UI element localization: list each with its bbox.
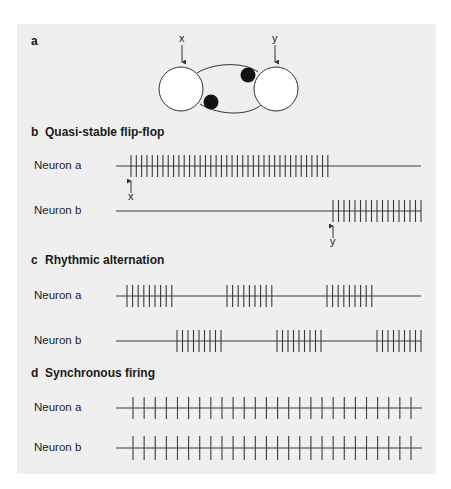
synapse-a-to-b-icon: [241, 68, 256, 83]
circuit-diagram: [159, 45, 298, 113]
synapse-b-to-a-icon: [204, 95, 219, 110]
spike-traces: [116, 155, 422, 460]
neuron-b-cell: [254, 67, 298, 111]
figure-canvas: [0, 0, 451, 489]
neuron-a-cell: [159, 67, 203, 111]
